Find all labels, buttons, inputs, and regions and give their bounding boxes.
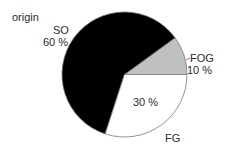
fg-label: FG: [165, 132, 180, 144]
fg-percent: 30 %: [133, 96, 158, 108]
pie-slices: [62, 12, 190, 137]
fog-percent: 10 %: [187, 64, 212, 76]
so-percent: 60 %: [43, 36, 68, 48]
chart-title: origin: [12, 11, 39, 23]
so-label: SO: [53, 24, 69, 36]
fog-label: FOG: [190, 52, 214, 64]
